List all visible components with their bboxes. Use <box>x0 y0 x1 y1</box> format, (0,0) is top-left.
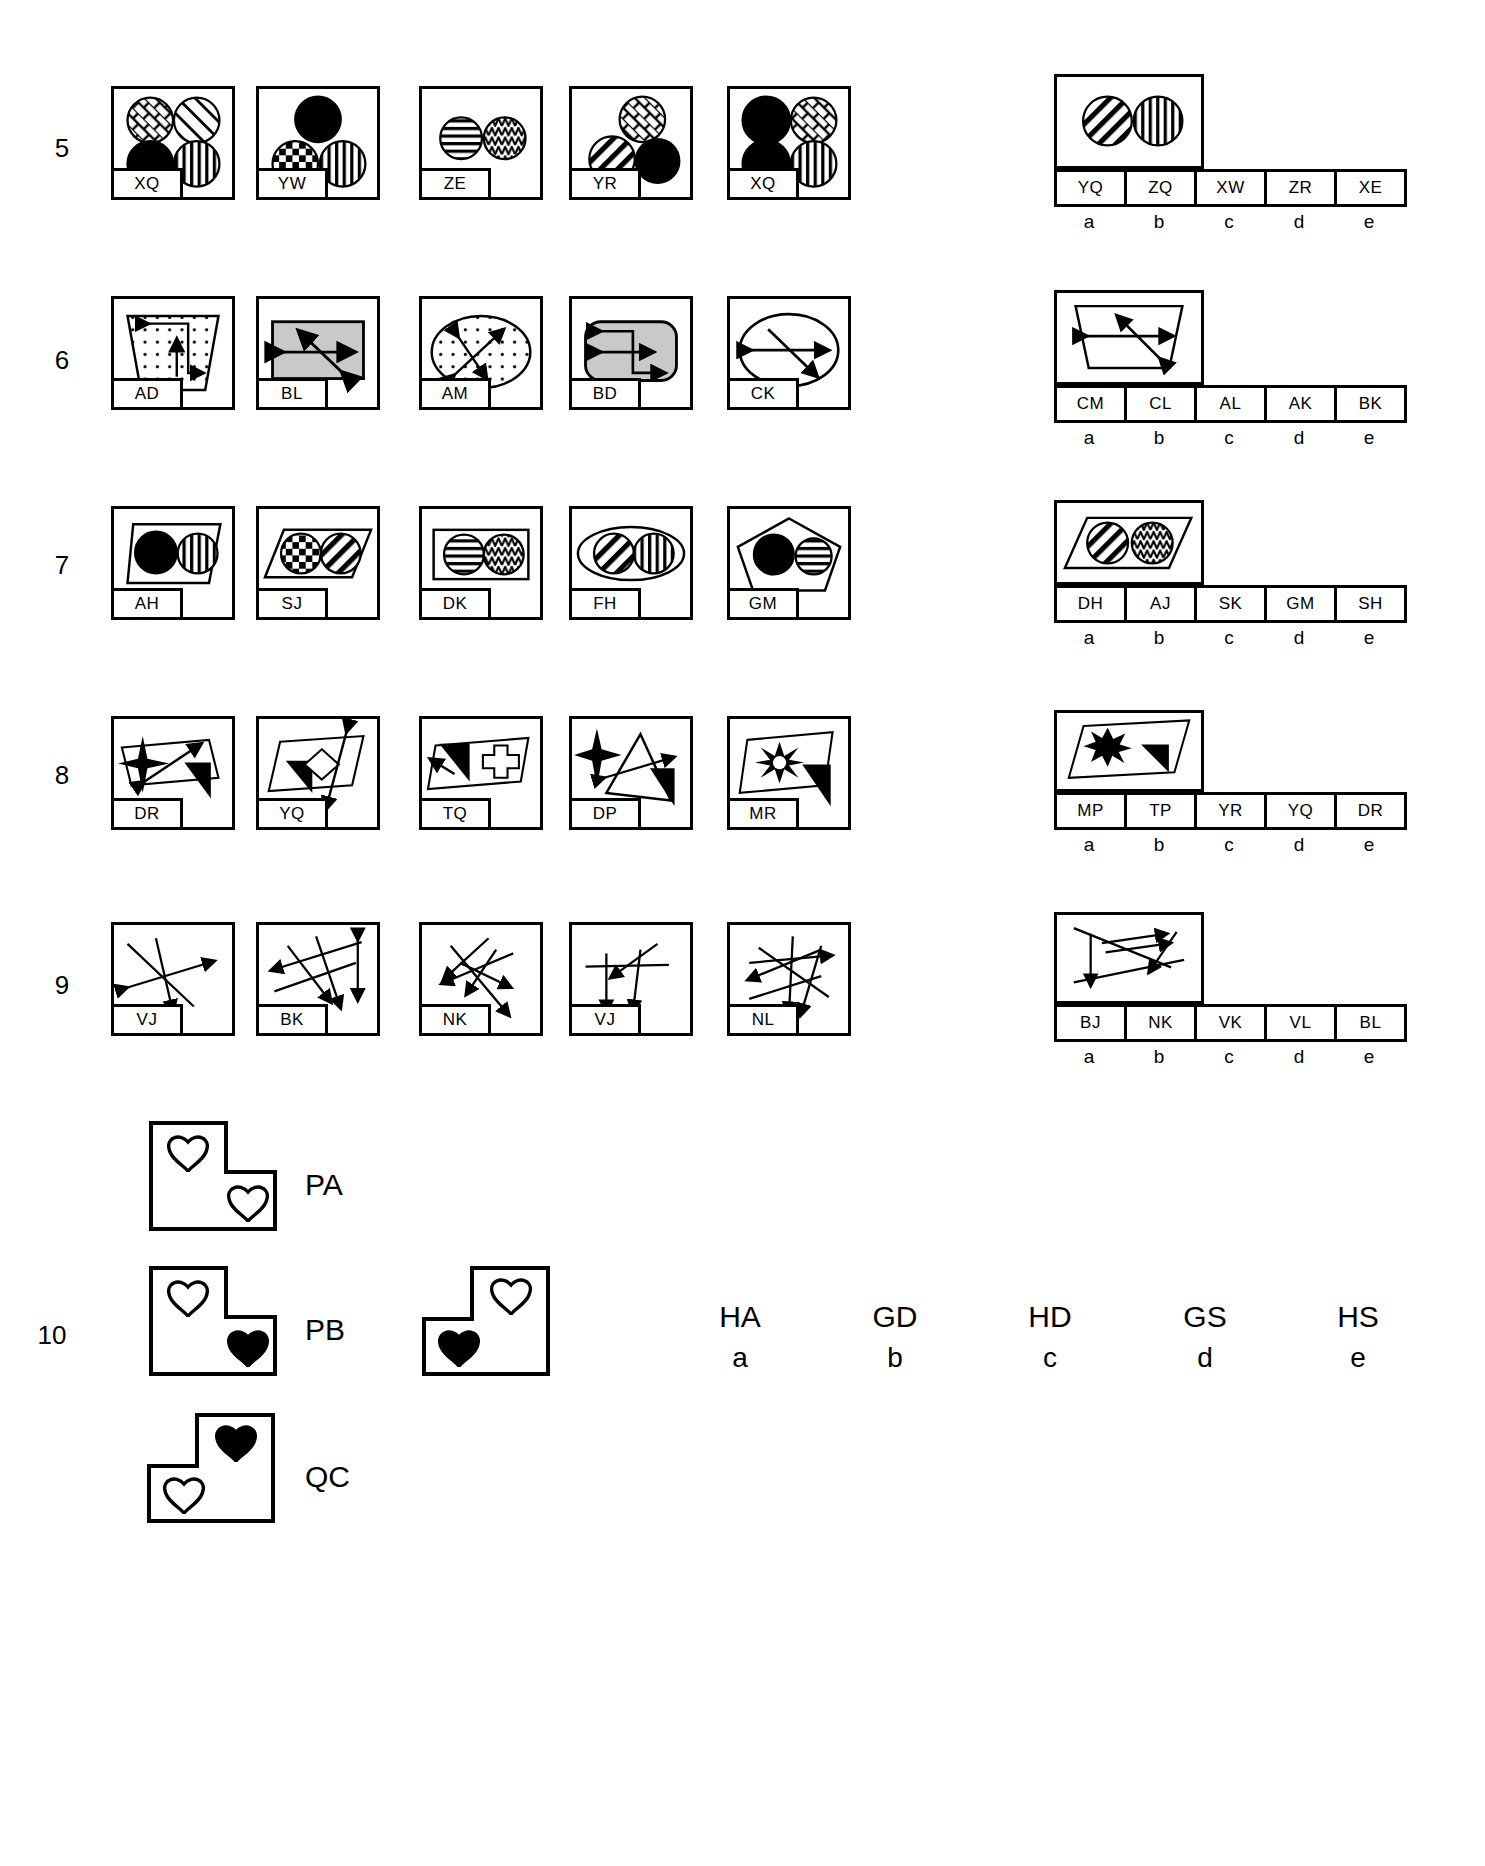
answer-option[interactable]: AK <box>1267 388 1337 420</box>
problem-panel[interactable]: FH <box>569 506 693 620</box>
answer-option[interactable]: CL <box>1127 388 1197 420</box>
problem-panel[interactable]: YQ <box>256 716 380 830</box>
answer-option[interactable]: AJ <box>1127 588 1197 620</box>
answer-option[interactable]: DR <box>1337 795 1407 827</box>
answer-option[interactable]: YR <box>1197 795 1267 827</box>
answer-option[interactable]: ZR <box>1267 172 1337 204</box>
answer-letters: a b c d e <box>1054 1046 1407 1068</box>
row10-example-figure <box>148 1265 278 1377</box>
answer-option[interactable]: BJ <box>1057 1007 1127 1039</box>
answer-figure-box <box>1054 710 1204 792</box>
answer-letter: a <box>1054 627 1124 649</box>
answer-option[interactable]: ZQ <box>1127 172 1197 204</box>
answer-figure-box <box>1054 290 1204 385</box>
row10-option-letter: b <box>845 1342 945 1374</box>
answer-option[interactable]: BL <box>1337 1007 1407 1039</box>
problem-panel[interactable]: DP <box>569 716 693 830</box>
problem-panel[interactable]: DR <box>111 716 235 830</box>
row10-option-code: HA <box>690 1300 790 1334</box>
answer-figure-box <box>1054 74 1204 169</box>
row10-option[interactable]: HA a <box>690 1300 790 1374</box>
L-shape-notch-right <box>148 1265 278 1377</box>
row10-option-code: GD <box>845 1300 945 1334</box>
panel-tag: VJ <box>111 1004 183 1036</box>
answer-option[interactable]: AL <box>1197 388 1267 420</box>
row10-example-label: QC <box>305 1460 350 1494</box>
L-shape-notch-left <box>140 1412 278 1524</box>
answer-option[interactable]: CM <box>1057 388 1127 420</box>
problem-panel[interactable]: GM <box>727 506 851 620</box>
answer-option[interactable]: GM <box>1267 588 1337 620</box>
problem-panel[interactable]: XQ <box>111 86 235 200</box>
problem-panel[interactable]: YR <box>569 86 693 200</box>
problem-panel[interactable]: ZE <box>419 86 543 200</box>
answer-letters: a b c d e <box>1054 211 1407 233</box>
answer-option[interactable]: YQ <box>1267 795 1337 827</box>
row10-option[interactable]: GS d <box>1155 1300 1255 1374</box>
answer-letter: d <box>1264 427 1334 449</box>
answer-option[interactable]: XW <box>1197 172 1267 204</box>
answer-letters: a b c d e <box>1054 834 1407 856</box>
answer-options-strip: BJ NK VK VL BL <box>1054 1004 1407 1042</box>
row-number-10: 10 <box>32 1320 72 1351</box>
panel-tag: YQ <box>256 798 328 830</box>
panel-tag: DK <box>419 588 491 620</box>
problem-panel[interactable]: AD <box>111 296 235 410</box>
problem-panel[interactable]: BL <box>256 296 380 410</box>
problem-panel[interactable]: VJ <box>111 922 235 1036</box>
row-number-6: 6 <box>42 345 82 376</box>
answer-option[interactable]: BK <box>1337 388 1407 420</box>
panel-tag: BL <box>256 378 328 410</box>
problem-panel[interactable]: AH <box>111 506 235 620</box>
answer-option[interactable]: TP <box>1127 795 1197 827</box>
answer-options-strip: MP TP YR YQ DR <box>1054 792 1407 830</box>
answer-option[interactable]: XE <box>1337 172 1407 204</box>
problem-panel[interactable]: XQ <box>727 86 851 200</box>
row-number-8: 8 <box>42 760 82 791</box>
problem-panel[interactable]: MR <box>727 716 851 830</box>
answer-option[interactable]: SK <box>1197 588 1267 620</box>
answer-figure <box>1057 713 1201 789</box>
problem-panel[interactable]: VJ <box>569 922 693 1036</box>
answer-letter: e <box>1334 1046 1404 1068</box>
problem-panel[interactable]: NK <box>419 922 543 1036</box>
answer-option[interactable]: NK <box>1127 1007 1197 1039</box>
answer-letter: c <box>1194 427 1264 449</box>
row10-option[interactable]: HS e <box>1308 1300 1408 1374</box>
panel-tag: GM <box>727 588 799 620</box>
problem-panel[interactable]: SJ <box>256 506 380 620</box>
answer-letter: a <box>1054 1046 1124 1068</box>
panel-tag: NK <box>419 1004 491 1036</box>
answer-letter: b <box>1124 211 1194 233</box>
row10-option-code: HD <box>1000 1300 1100 1334</box>
answer-option[interactable]: VL <box>1267 1007 1337 1039</box>
problem-panel[interactable]: BD <box>569 296 693 410</box>
answer-option[interactable]: DH <box>1057 588 1127 620</box>
answer-figure <box>1057 503 1201 582</box>
row-number-9: 9 <box>42 970 82 1001</box>
problem-panel[interactable]: BK <box>256 922 380 1036</box>
answer-figure-box <box>1054 912 1204 1004</box>
answer-option[interactable]: MP <box>1057 795 1127 827</box>
row10-example-label: PA <box>305 1168 343 1202</box>
answer-letter: c <box>1194 211 1264 233</box>
panel-tag: MR <box>727 798 799 830</box>
row10-option[interactable]: HD c <box>1000 1300 1100 1374</box>
problem-panel[interactable]: DK <box>419 506 543 620</box>
row10-option[interactable]: GD b <box>845 1300 945 1374</box>
answer-options-strip: YQ ZQ XW ZR XE <box>1054 169 1407 207</box>
problem-panel[interactable]: TQ <box>419 716 543 830</box>
panel-tag: XQ <box>111 168 183 200</box>
answer-option[interactable]: VK <box>1197 1007 1267 1039</box>
row10-option-letter: e <box>1308 1342 1408 1374</box>
problem-panel[interactable]: NL <box>727 922 851 1036</box>
answer-option[interactable]: YQ <box>1057 172 1127 204</box>
problem-panel[interactable]: AM <box>419 296 543 410</box>
answer-figure-box <box>1054 500 1204 585</box>
problem-panel[interactable]: CK <box>727 296 851 410</box>
answer-letter: a <box>1054 211 1124 233</box>
answer-letter: d <box>1264 627 1334 649</box>
problem-panel[interactable]: YW <box>256 86 380 200</box>
row10-option-code: GS <box>1155 1300 1255 1334</box>
answer-option[interactable]: SH <box>1337 588 1407 620</box>
